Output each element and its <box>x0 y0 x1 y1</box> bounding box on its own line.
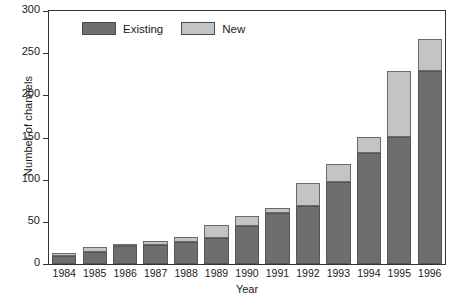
bar-segment-new[interactable] <box>52 253 76 256</box>
y-axis-tick-label: 0 <box>34 256 40 268</box>
x-axis-tick-label: 1994 <box>354 267 384 279</box>
y-axis-tick-label: 50 <box>28 214 40 226</box>
bar-segment-new[interactable] <box>143 241 167 245</box>
bar-segment-new[interactable] <box>418 39 442 71</box>
legend-item-new[interactable]: New <box>181 22 245 35</box>
bar-segment-existing[interactable] <box>235 226 259 264</box>
bar-group[interactable] <box>296 183 320 264</box>
bar-segment-new[interactable] <box>174 237 198 242</box>
bar-group[interactable] <box>418 39 442 264</box>
bar-segment-existing[interactable] <box>296 206 320 264</box>
bar-segment-existing[interactable] <box>265 213 289 264</box>
legend-label: Existing <box>123 23 163 35</box>
bar-segment-existing[interactable] <box>113 246 137 264</box>
bar-group[interactable] <box>113 245 137 264</box>
bar-group[interactable] <box>265 208 289 265</box>
y-axis-tick-mark <box>43 264 48 265</box>
legend-swatch-new <box>181 22 215 35</box>
bar-segment-new[interactable] <box>296 183 320 206</box>
bar-segment-existing[interactable] <box>204 238 228 264</box>
bar-segment-existing[interactable] <box>143 245 167 264</box>
bar-group[interactable] <box>235 216 259 264</box>
bar-group[interactable] <box>143 241 167 264</box>
y-axis-tick-label: 100 <box>22 172 40 184</box>
y-axis-title: Number of channels <box>22 36 34 216</box>
bar-segment-existing[interactable] <box>326 182 350 264</box>
bar-group[interactable] <box>357 137 381 264</box>
x-axis-tick-label: 1985 <box>79 267 109 279</box>
bar-segment-existing[interactable] <box>357 153 381 264</box>
x-axis-tick-label: 1991 <box>262 267 292 279</box>
bar-group[interactable] <box>204 225 228 264</box>
bar-chart: Number of channels 050100150200250300 19… <box>0 0 454 302</box>
chart-legend: ExistingNew <box>82 22 245 35</box>
y-axis-tick-mark <box>43 11 48 12</box>
x-axis-tick-label: 1993 <box>323 267 353 279</box>
y-axis-tick-label: 300 <box>22 3 40 15</box>
bar-segment-new[interactable] <box>387 71 411 137</box>
x-axis-ticks: 1984198519861987198819891990199119921993… <box>49 267 445 283</box>
bar-segment-new[interactable] <box>235 216 259 226</box>
bar-segment-new[interactable] <box>113 244 137 246</box>
bar-segment-new[interactable] <box>265 208 289 214</box>
x-axis-tick-label: 1996 <box>415 267 445 279</box>
bar-segment-new[interactable] <box>357 137 381 153</box>
x-axis-tick-label: 1995 <box>384 267 414 279</box>
y-axis-tick-mark <box>43 95 48 96</box>
x-axis-tick-label: 1990 <box>232 267 262 279</box>
bar-segment-existing[interactable] <box>174 242 198 264</box>
legend-label: New <box>222 23 245 35</box>
y-axis-tick-mark <box>43 180 48 181</box>
legend-item-existing[interactable]: Existing <box>82 22 163 35</box>
y-axis-tick-mark <box>43 222 48 223</box>
bar-segment-existing[interactable] <box>83 252 107 264</box>
x-axis-tick-label: 1984 <box>49 267 79 279</box>
y-axis-tick-label: 250 <box>22 45 40 57</box>
x-axis-tick-label: 1987 <box>140 267 170 279</box>
bar-group[interactable] <box>387 71 411 264</box>
x-axis-tick-label: 1988 <box>171 267 201 279</box>
bars-layer <box>49 11 445 264</box>
x-axis-tick-label: 1989 <box>201 267 231 279</box>
bar-group[interactable] <box>174 237 198 264</box>
bar-segment-existing[interactable] <box>387 137 411 264</box>
bar-segment-new[interactable] <box>326 164 350 183</box>
x-axis-tick-label: 1986 <box>110 267 140 279</box>
bar-group[interactable] <box>326 164 350 264</box>
y-axis-tick-mark <box>43 53 48 54</box>
legend-swatch-existing <box>82 22 116 35</box>
y-axis-tick-mark <box>43 138 48 139</box>
x-axis-tick-label: 1992 <box>293 267 323 279</box>
bar-segment-new[interactable] <box>83 247 107 252</box>
bar-group[interactable] <box>83 247 107 264</box>
bar-group[interactable] <box>52 253 76 264</box>
y-axis-tick-label: 150 <box>22 130 40 142</box>
y-axis-tick-label: 200 <box>22 87 40 99</box>
bar-segment-existing[interactable] <box>418 71 442 264</box>
bar-segment-existing[interactable] <box>52 256 76 264</box>
bar-segment-new[interactable] <box>204 225 228 238</box>
x-axis-title: Year <box>48 283 446 295</box>
